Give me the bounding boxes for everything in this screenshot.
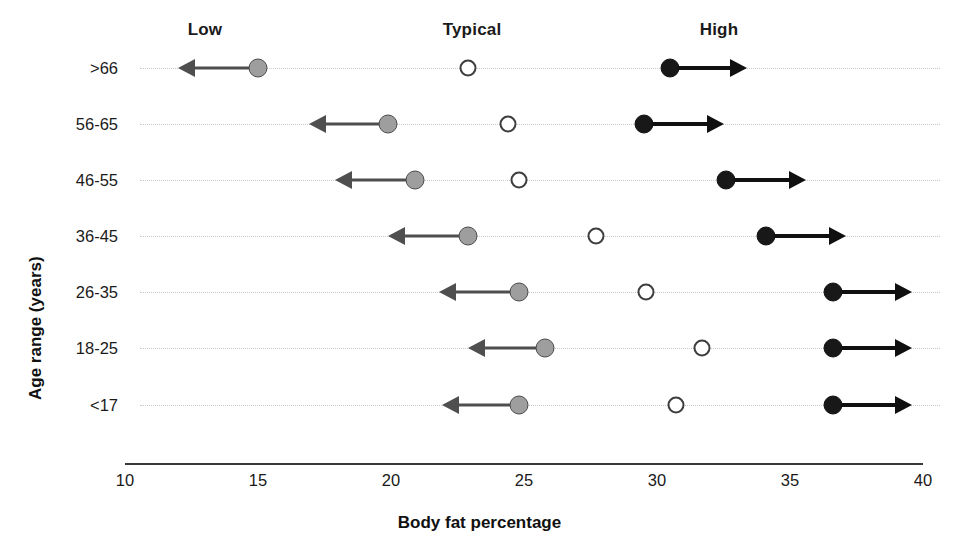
y-axis-tick-label-1: 56-65	[76, 115, 118, 134]
typical-marker-5[interactable]	[694, 340, 711, 357]
low-marker-6[interactable]	[509, 396, 528, 415]
high-arrow-shaft-4	[833, 290, 899, 294]
row-guide	[140, 405, 940, 406]
low-marker-1[interactable]	[379, 115, 398, 134]
row-guide	[140, 124, 940, 125]
high-arrow-shaft-2	[726, 178, 792, 182]
low-arrow-head-2	[335, 171, 352, 189]
typical-marker-2[interactable]	[510, 172, 527, 189]
high-marker-5[interactable]	[823, 339, 842, 358]
low-arrow-head-6	[442, 396, 459, 414]
column-header-typical: Typical	[443, 20, 502, 40]
low-arrow-head-0	[178, 59, 195, 77]
low-arrow-head-5	[468, 339, 485, 357]
typical-marker-3[interactable]	[587, 228, 604, 245]
low-marker-4[interactable]	[509, 283, 528, 302]
x-tick-30: 30	[648, 471, 666, 490]
typical-marker-4[interactable]	[638, 284, 655, 301]
high-arrow-head-3	[829, 227, 846, 245]
y-axis-tick-label-5: 18-25	[76, 339, 118, 358]
y-axis-title: Age range (years)	[26, 256, 46, 400]
low-marker-5[interactable]	[536, 339, 555, 358]
y-axis-tick-label-0: >66	[90, 59, 118, 78]
low-arrow-head-3	[388, 227, 405, 245]
x-axis-title: Body fat percentage	[0, 513, 959, 533]
low-marker-2[interactable]	[405, 171, 424, 190]
high-marker-6[interactable]	[823, 396, 842, 415]
x-axis-line	[125, 463, 923, 465]
x-tick-40: 40	[914, 471, 932, 490]
high-marker-4[interactable]	[823, 283, 842, 302]
row-guide	[140, 292, 940, 293]
typical-marker-6[interactable]	[667, 397, 684, 414]
y-axis-tick-label-4: 26-35	[76, 283, 118, 302]
row-guide	[140, 180, 940, 181]
x-tick-15: 15	[249, 471, 267, 490]
typical-marker-0[interactable]	[460, 60, 477, 77]
high-arrow-head-4	[895, 283, 912, 301]
high-marker-1[interactable]	[634, 115, 653, 134]
high-arrow-shaft-1	[644, 122, 710, 126]
low-marker-0[interactable]	[249, 59, 268, 78]
x-tick-20: 20	[382, 471, 400, 490]
low-arrow-head-4	[439, 283, 456, 301]
low-marker-3[interactable]	[459, 227, 478, 246]
x-tick-25: 25	[515, 471, 533, 490]
x-tick-10: 10	[116, 471, 134, 490]
high-arrow-head-5	[895, 339, 912, 357]
high-marker-2[interactable]	[717, 171, 736, 190]
high-marker-0[interactable]	[661, 59, 680, 78]
high-marker-3[interactable]	[757, 227, 776, 246]
high-arrow-head-0	[730, 59, 747, 77]
y-axis-tick-label-2: 46-55	[76, 171, 118, 190]
low-arrow-head-1	[309, 115, 326, 133]
y-axis-tick-label-3: 36-45	[76, 227, 118, 246]
y-axis-tick-label-6: <17	[90, 396, 118, 415]
high-arrow-shaft-6	[833, 403, 899, 407]
typical-marker-1[interactable]	[500, 116, 517, 133]
high-arrow-head-1	[707, 115, 724, 133]
high-arrow-head-6	[895, 396, 912, 414]
column-header-high: High	[700, 20, 739, 40]
x-tick-35: 35	[781, 471, 799, 490]
high-arrow-head-2	[789, 171, 806, 189]
column-header-low: Low	[188, 20, 223, 40]
body-fat-percentage-chart: Low Typical High Age range (years) >6656…	[0, 0, 959, 554]
high-arrow-shaft-3	[766, 234, 832, 238]
high-arrow-shaft-5	[833, 346, 899, 350]
